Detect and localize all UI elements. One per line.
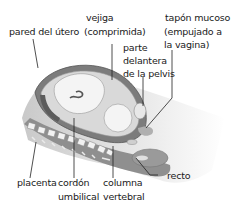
label-pelvis-line2: delantera <box>123 55 167 67</box>
label-bladder-line2: (comprimida) <box>84 26 146 38</box>
label-umbilical-cord-line1: cordón <box>58 177 89 189</box>
mucus-plug <box>127 140 137 145</box>
label-rectum: recto <box>167 170 190 182</box>
label-bladder-line1: vejiga <box>86 12 113 24</box>
label-pelvis-line1: parte <box>123 42 147 54</box>
label-uterine-wall: pared del útero <box>9 26 79 38</box>
label-placenta: placenta <box>17 177 57 189</box>
label-spine-line2: vertebral <box>103 191 145 203</box>
label-mucus-plug-line3: la vagina) <box>164 39 209 51</box>
label-pelvis-line3: de la pelvis <box>123 68 175 80</box>
bladder <box>134 103 146 119</box>
fetus-head <box>104 104 132 132</box>
label-mucus-plug-line1: tapón mucoso <box>165 12 230 24</box>
label-umbilical-cord-line2: umbilical <box>58 191 99 203</box>
label-mucus-plug-line2: (empujado a <box>164 26 222 38</box>
label-spine-line1: columna <box>103 177 142 189</box>
